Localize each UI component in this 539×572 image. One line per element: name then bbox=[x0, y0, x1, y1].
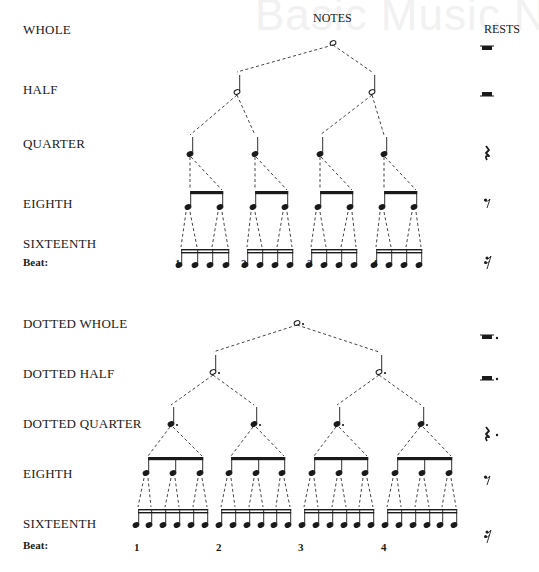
dashed-connector bbox=[165, 478, 171, 507]
sixteenth-beam bbox=[247, 252, 293, 253]
dashed-connector bbox=[202, 478, 207, 507]
sixteenth-beam bbox=[181, 252, 229, 253]
dashed-connector bbox=[231, 427, 253, 456]
dashed-connector bbox=[341, 212, 348, 247]
dashed-connector bbox=[372, 95, 384, 135]
sixteenth-beam bbox=[181, 249, 229, 250]
augmentation-dot bbox=[259, 424, 261, 426]
dashed-connector bbox=[191, 157, 222, 190]
dashed-connector bbox=[175, 478, 179, 507]
dashed-connector bbox=[423, 427, 451, 456]
sixteenth-beam bbox=[304, 509, 374, 510]
dashed-connector bbox=[320, 212, 326, 247]
dashed-connector bbox=[221, 478, 227, 507]
eighth-beam bbox=[231, 457, 285, 460]
dashed-connector bbox=[442, 478, 447, 507]
dashed-connector bbox=[284, 478, 290, 507]
dashed-connector bbox=[237, 45, 333, 72]
note-tree-diagram bbox=[0, 0, 539, 572]
dashed-connector bbox=[237, 95, 255, 135]
eighth-rest-icon bbox=[484, 198, 490, 208]
dashed-connector bbox=[385, 157, 416, 190]
dashed-connector bbox=[397, 427, 420, 456]
augmentation-dot bbox=[218, 372, 220, 374]
sixteenth-beam bbox=[387, 509, 457, 510]
dashed-connector bbox=[333, 45, 372, 72]
augmentation-dot bbox=[426, 424, 428, 426]
dashed-connector bbox=[181, 212, 186, 247]
dashed-connector bbox=[276, 478, 280, 507]
dashed-connector bbox=[171, 375, 213, 405]
dashed-connector bbox=[337, 375, 379, 405]
dashed-connector bbox=[297, 325, 379, 352]
dashed-connector bbox=[314, 427, 336, 456]
sixteenth-rest-icon bbox=[484, 256, 491, 269]
dotted-half-rest-icon bbox=[480, 376, 498, 380]
dashed-connector bbox=[367, 478, 373, 507]
eighth-beam bbox=[190, 191, 223, 194]
sixteenth-beam bbox=[376, 252, 422, 253]
dashed-connector bbox=[387, 478, 393, 507]
eighth-beam bbox=[397, 457, 452, 460]
dashed-connector bbox=[256, 427, 284, 456]
dashed-connector bbox=[256, 157, 287, 190]
augmentation-dot bbox=[302, 323, 304, 325]
whole-rest-icon bbox=[480, 46, 494, 50]
dashed-connector bbox=[352, 212, 356, 247]
dashed-connector bbox=[451, 478, 456, 507]
dashed-connector bbox=[277, 212, 283, 247]
dashed-connector bbox=[258, 478, 263, 507]
sixteenth-beam bbox=[221, 509, 291, 510]
dashed-connector bbox=[231, 478, 235, 507]
dashed-connector bbox=[359, 478, 363, 507]
dashed-connector bbox=[379, 375, 421, 405]
dotted-quarter-rest-icon bbox=[486, 427, 498, 441]
dashed-connector bbox=[249, 478, 254, 507]
eighth-beam bbox=[320, 191, 353, 194]
dashed-connector bbox=[193, 478, 198, 507]
dashed-connector bbox=[213, 325, 297, 352]
dashed-connector bbox=[314, 478, 318, 507]
dashed-connector bbox=[424, 478, 429, 507]
dashed-connector bbox=[222, 212, 228, 247]
dashed-connector bbox=[148, 427, 170, 456]
sixteenth-beam bbox=[221, 512, 291, 513]
dashed-connector bbox=[416, 212, 421, 247]
sixteenth-beam bbox=[311, 249, 357, 250]
dotted-whole-rest-icon bbox=[480, 335, 498, 339]
dashed-connector bbox=[304, 478, 310, 507]
dashed-connector bbox=[247, 212, 251, 247]
sixteenth-beam bbox=[304, 512, 374, 513]
sixteenth-beam bbox=[247, 249, 293, 250]
dashed-connector bbox=[173, 427, 202, 456]
eighth-beam bbox=[255, 191, 288, 194]
dashed-connector bbox=[406, 212, 412, 247]
sixteenth-beam bbox=[138, 509, 208, 510]
eighth-beam bbox=[148, 457, 203, 460]
dashed-connector bbox=[287, 212, 292, 247]
sixteenth-beam bbox=[311, 252, 357, 253]
eighth-beam bbox=[314, 457, 368, 460]
sixteenth-rest-icon bbox=[484, 530, 491, 543]
augmentation-dot bbox=[176, 424, 178, 426]
sixteenth-beam bbox=[387, 512, 457, 513]
dashed-connector bbox=[397, 478, 401, 507]
half-rest-icon bbox=[480, 92, 494, 96]
dashed-connector bbox=[190, 95, 237, 135]
dashed-connector bbox=[212, 212, 218, 247]
augmentation-dot bbox=[342, 424, 344, 426]
dashed-connector bbox=[255, 212, 262, 247]
dashed-connector bbox=[320, 95, 372, 135]
dashed-connector bbox=[213, 375, 254, 405]
sixteenth-beam bbox=[138, 512, 208, 513]
dashed-connector bbox=[332, 478, 337, 507]
dashed-connector bbox=[311, 212, 316, 247]
dashed-connector bbox=[384, 212, 391, 247]
quarter-rest-icon bbox=[486, 146, 489, 160]
sixteenth-beam bbox=[376, 249, 422, 250]
dashed-connector bbox=[138, 478, 144, 507]
eighth-rest-icon bbox=[484, 475, 490, 485]
dashed-connector bbox=[321, 157, 352, 190]
dashed-connector bbox=[415, 478, 420, 507]
dashed-connector bbox=[148, 478, 151, 507]
